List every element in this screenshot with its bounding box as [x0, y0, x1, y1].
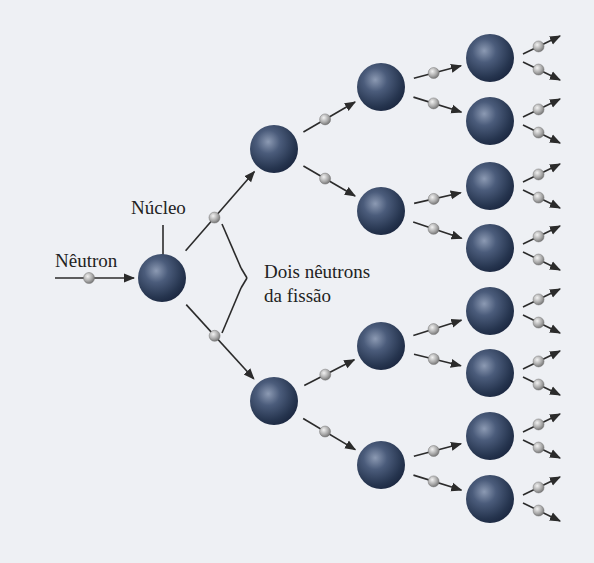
neutron-icon: [428, 98, 439, 109]
neutron-arrow: [523, 99, 560, 117]
neutron-arrow: [523, 164, 560, 182]
neutron-icon: [320, 426, 331, 437]
neutron-arrow: [414, 354, 461, 366]
neutron-icon: [428, 223, 439, 234]
fission-neutrons-label-line2: da fissão: [264, 285, 331, 307]
neutron-arrow: [303, 418, 355, 449]
neutron-icon: [428, 354, 439, 365]
nucleus-label: Núcleo: [131, 197, 186, 219]
neutron-arrow: [523, 62, 560, 80]
nucleus-icon: [357, 322, 405, 370]
neutron-label: Nêutron: [55, 250, 117, 272]
neutron-icon: [428, 67, 439, 78]
neutron-icon: [533, 104, 544, 115]
neutron-arrow: [523, 351, 560, 369]
neutron-icon: [533, 64, 544, 75]
neutron-icon: [533, 482, 544, 493]
neutron-icon: [533, 294, 544, 305]
neutron-icon: [320, 369, 331, 380]
neutron-arrow: [523, 414, 560, 432]
nucleus-icon: [357, 63, 405, 111]
nucleus-icon: [466, 97, 514, 145]
neutron-arrow: [304, 360, 354, 386]
neutron-icon: [533, 41, 544, 52]
neutron-icon: [428, 324, 439, 335]
neutron-arrow: [303, 166, 355, 196]
nucleus-icon: [357, 441, 405, 489]
nucleus-icon: [466, 412, 514, 460]
neutron-icon: [209, 212, 220, 223]
nucleus-icon: [466, 34, 514, 82]
neutron-icon: [320, 173, 331, 184]
neutron-arrow: [523, 503, 560, 521]
fission-neutrons-label-line1: Dois nêutrons: [264, 261, 370, 283]
neutron-arrow: [414, 444, 461, 457]
nucleus-icon: [250, 377, 298, 425]
neutron-icon: [533, 169, 544, 180]
neutron-icon: [533, 379, 544, 390]
neutron-arrow: [523, 315, 560, 333]
neutron-arrow: [414, 66, 461, 79]
neutron-arrow: [523, 226, 560, 244]
fission-chain-diagram: Nêutron Núcleo Dois nêutrons da fissão: [0, 0, 594, 563]
nucleus-icon: [357, 187, 405, 235]
neutron-icon: [533, 419, 544, 430]
neutron-arrow: [303, 102, 355, 132]
neutron-icon: [533, 127, 544, 138]
neutron-arrow: [523, 252, 560, 270]
neutron-arrow: [186, 172, 255, 251]
neutron-arrow: [413, 475, 461, 490]
outgoing-neutrons: [523, 36, 560, 521]
neutron-arrow: [186, 305, 254, 379]
neutron-icon: [428, 193, 439, 204]
nucleus-icon: [138, 254, 186, 302]
neutron-icon: [320, 114, 331, 125]
neutron-arrow: [523, 477, 560, 495]
neutron-arrow: [523, 440, 560, 458]
neutron-arrow: [523, 377, 560, 395]
neutron-icon: [533, 505, 544, 516]
nucleus-icon: [466, 475, 514, 523]
nucleus-icon: [466, 224, 514, 272]
neutron-arrow: [523, 125, 560, 143]
nucleus-icon: [466, 349, 514, 397]
neutron-arrow: [413, 320, 461, 335]
neutron-icon: [533, 192, 544, 203]
neutron-arrow: [414, 193, 461, 205]
neutron-icon: [209, 330, 220, 341]
neutron-icon: [428, 476, 439, 487]
neutron-icon: [533, 356, 544, 367]
fission-bracket: [222, 224, 247, 333]
neutron-icon: [533, 231, 544, 242]
neutron-icon: [533, 254, 544, 265]
incoming-neutron: [55, 273, 134, 284]
neutron-icon: [533, 317, 544, 328]
nucleus-icon: [466, 162, 514, 210]
neutron-icon: [533, 442, 544, 453]
neutron-icon: [428, 445, 439, 456]
neutron-arrow: [413, 97, 461, 112]
neutron-arrow: [523, 190, 560, 208]
nucleus-icon: [466, 287, 514, 335]
neutron-arrow: [523, 289, 560, 307]
nucleus-icon: [250, 125, 298, 173]
neutron-arrow: [413, 222, 461, 238]
neutron-arrow: [523, 36, 560, 54]
